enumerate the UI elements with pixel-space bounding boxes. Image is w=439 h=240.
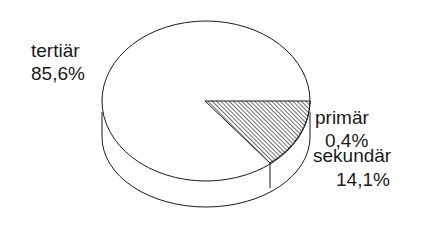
label-sekundar-name: sekundär	[313, 146, 391, 166]
label-tertiar-name: tertiär	[31, 41, 80, 61]
label-sekundar-value: 14,1%	[336, 170, 390, 190]
label-primar-name: primär	[315, 108, 369, 128]
label-tertiar-value: 85,6%	[31, 64, 85, 84]
